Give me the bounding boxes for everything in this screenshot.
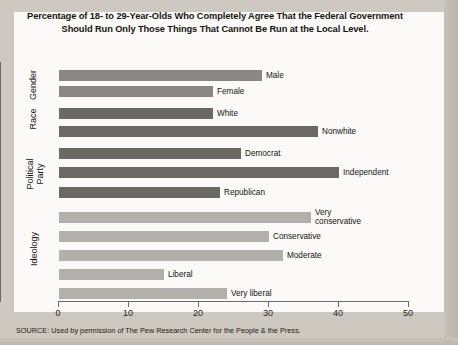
x-tick-label-50: 50 — [393, 308, 423, 318]
bar-label-nonwhite: Nonwhite — [322, 127, 356, 136]
chart-title-line-1: Percentage of 18- to 29-Year-Olds Who Co… — [10, 10, 420, 23]
bar-male — [59, 70, 262, 81]
chart-panel — [14, 12, 444, 312]
source-note: SOURCE: Used by permission of The Pew Re… — [16, 326, 301, 335]
group-label-political-party-line-1: Political — [25, 159, 35, 190]
bar-very-conservative — [59, 212, 311, 223]
bar-independent — [59, 167, 339, 178]
bar-label-independent: Independent — [343, 168, 389, 177]
x-axis-line — [58, 301, 409, 302]
y-axis-line — [0, 62, 1, 302]
group-label-ideology-text: Ideology — [29, 232, 39, 266]
bar-label-conservative: Conservative — [273, 232, 321, 241]
x-tick-0 — [58, 302, 59, 307]
x-tick-20 — [198, 302, 199, 307]
bar-label-very-conservative-line-2: conservative — [315, 217, 361, 226]
bar-very-liberal — [59, 288, 227, 299]
x-tick-label-30: 30 — [253, 308, 283, 318]
bar-label-male: Male — [266, 71, 284, 80]
x-tick-50 — [408, 302, 409, 307]
x-tick-label-10: 10 — [113, 308, 143, 318]
x-tick-label-20: 20 — [183, 308, 213, 318]
x-tick-30 — [268, 302, 269, 307]
chart-title: Percentage of 18- to 29-Year-Olds Who Co… — [10, 10, 420, 35]
bar-nonwhite — [59, 126, 318, 137]
x-tick-40 — [338, 302, 339, 307]
bar-liberal — [59, 269, 164, 280]
bar-republican — [59, 187, 220, 198]
x-tick-10 — [128, 302, 129, 307]
bar-label-moderate: Moderate — [287, 251, 322, 260]
page-edge-bottom — [0, 338, 458, 345]
x-tick-label-0: 0 — [43, 308, 73, 318]
group-label-political-party: Political Party — [25, 137, 45, 211]
group-label-race-text: Race — [28, 109, 38, 130]
group-label-political-party-line-2: Party — [35, 164, 45, 185]
bar-democrat — [59, 148, 241, 159]
bar-white — [59, 108, 213, 119]
bar-moderate — [59, 250, 283, 261]
bar-conservative — [59, 231, 269, 242]
chart-title-line-2: Should Run Only Those Things That Cannot… — [10, 23, 420, 36]
bar-label-very-conservative: Very conservative — [315, 208, 361, 226]
page-edge-right — [444, 0, 458, 345]
group-label-ideology: Ideology — [29, 216, 39, 282]
bar-label-white: White — [217, 109, 238, 118]
bar-label-democrat: Democrat — [245, 149, 281, 158]
bar-label-female: Female — [217, 87, 244, 96]
figure-page: Percentage of 18- to 29-Year-Olds Who Co… — [0, 0, 458, 345]
bar-label-republican: Republican — [224, 188, 265, 197]
bar-female — [59, 86, 213, 97]
x-tick-label-40: 40 — [323, 308, 353, 318]
bar-label-very-liberal: Very liberal — [231, 289, 272, 298]
bar-label-liberal: Liberal — [168, 270, 193, 279]
bar-label-very-conservative-line-1: Very — [315, 208, 331, 217]
